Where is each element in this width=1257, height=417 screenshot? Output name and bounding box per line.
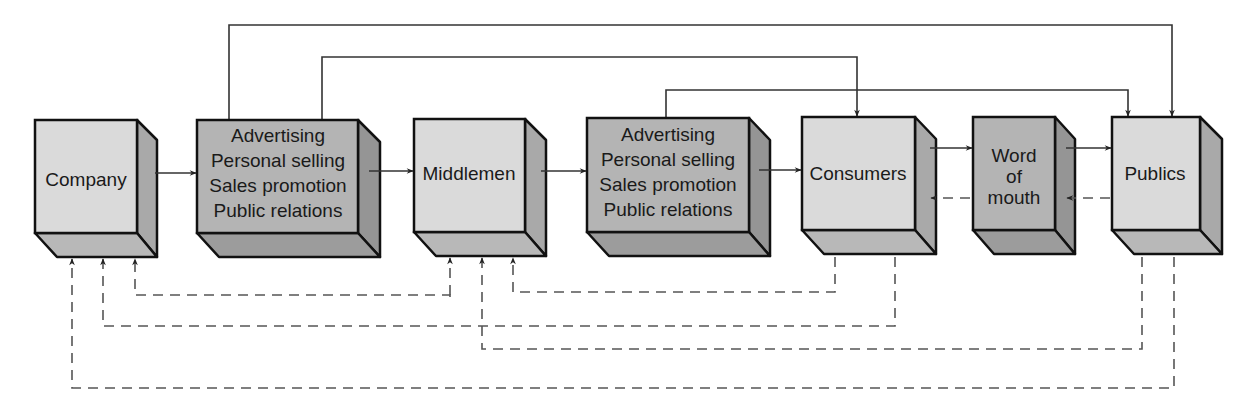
promo1-to-consumers-line <box>322 57 857 120</box>
promo1-to-publics-line <box>229 25 1172 120</box>
promotion-mix-box-1: Advertising Personal selling Sales promo… <box>197 120 380 257</box>
promo1-personal-selling: Personal selling <box>211 150 345 171</box>
consumers-to-middlemen-feedback <box>513 257 835 292</box>
svg-text:mouth: mouth <box>988 187 1041 208</box>
publics-to-company-feedback <box>72 257 1174 388</box>
communication-flow-diagram: Company Advertising Personal selling Sal… <box>0 0 1257 417</box>
consumers-box-bottom <box>802 230 936 254</box>
consumers-box: Consumers <box>802 117 936 254</box>
svg-text:Sales promotion: Sales promotion <box>209 175 346 196</box>
svg-text:Personal selling: Personal selling <box>211 150 345 171</box>
consumers-label: Consumers <box>809 163 906 184</box>
publics-to-middlemen-feedback <box>482 257 1142 349</box>
company-box-bottom <box>35 233 157 257</box>
svg-text:Sales promotion: Sales promotion <box>599 174 736 195</box>
promo2-to-publics-line <box>666 90 1128 118</box>
svg-text:Public relations: Public relations <box>214 200 343 221</box>
svg-text:Consumers: Consumers <box>809 163 906 184</box>
top-connectors <box>229 25 1172 120</box>
wom-line-of: of <box>1006 166 1023 187</box>
promo1-public-relations: Public relations <box>214 200 343 221</box>
word-of-mouth-box: Word of mouth <box>973 117 1075 254</box>
middlemen-label: Middlemen <box>423 163 516 184</box>
feedback-bottom-loops <box>72 257 1174 388</box>
svg-text:Public relations: Public relations <box>604 199 733 220</box>
publics-label: Publics <box>1124 163 1185 184</box>
middlemen-box-bottom <box>414 232 546 256</box>
svg-text:Advertising: Advertising <box>231 125 325 146</box>
promo1-box-bottom <box>197 233 380 257</box>
promo1-advertising: Advertising <box>231 125 325 146</box>
middlemen-box: Middlemen <box>414 119 546 256</box>
middlemen-to-company-feedback <box>135 259 450 297</box>
svg-text:Publics: Publics <box>1124 163 1185 184</box>
svg-text:of: of <box>1006 166 1023 187</box>
svg-text:Middlemen: Middlemen <box>423 163 516 184</box>
publics-box: Publics <box>1112 117 1222 254</box>
promo2-sales-promotion: Sales promotion <box>599 174 736 195</box>
company-box: Company <box>35 120 157 257</box>
svg-text:Personal selling: Personal selling <box>601 149 735 170</box>
promo2-advertising: Advertising <box>621 124 715 145</box>
promotion-mix-box-2: Advertising Personal selling Sales promo… <box>587 118 770 256</box>
svg-text:Word: Word <box>991 145 1036 166</box>
svg-text:Company: Company <box>45 169 127 190</box>
wom-line-mouth: mouth <box>988 187 1041 208</box>
promo2-box-bottom <box>587 232 770 256</box>
promo1-sales-promotion: Sales promotion <box>209 175 346 196</box>
company-label: Company <box>45 169 127 190</box>
promo2-personal-selling: Personal selling <box>601 149 735 170</box>
promo2-public-relations: Public relations <box>604 199 733 220</box>
svg-text:Advertising: Advertising <box>621 124 715 145</box>
wom-line-word: Word <box>991 145 1036 166</box>
